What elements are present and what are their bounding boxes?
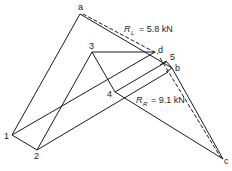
label-1: 1 [4,131,9,141]
line-4-5 [115,62,166,92]
label-c: c [224,156,229,166]
label-a: a [78,2,83,12]
force-diagram: a d 5 b 3 4 1 2 c R L = 5.8 kN R R = 9.1… [0,0,232,171]
svg-text:R: R [143,101,148,107]
reaction-left-label: R L = 5.8 kN [124,24,173,36]
line-a-1 [12,14,80,135]
svg-text:= 5.8 kN: = 5.8 kN [139,24,173,34]
svg-text:R: R [124,24,131,34]
line-2-b [37,72,168,150]
label-4: 4 [107,89,112,99]
reaction-left-dashed [83,14,158,54]
svg-text:R: R [136,95,143,105]
reaction-right-dashed [160,58,221,158]
label-d: d [158,45,163,55]
svg-text:L: L [131,30,134,36]
svg-text:= 9.1 kN: = 9.1 kN [151,95,185,105]
line-b-c [172,68,223,159]
label-5: 5 [170,52,175,62]
node-5-box [160,61,172,72]
label-3: 3 [89,41,94,51]
line-2-3 [37,52,92,150]
reaction-right-label: R R = 9.1 kN [136,95,185,107]
label-b: b [175,63,180,73]
line-1-2 [12,135,37,150]
label-2: 2 [34,151,39,161]
